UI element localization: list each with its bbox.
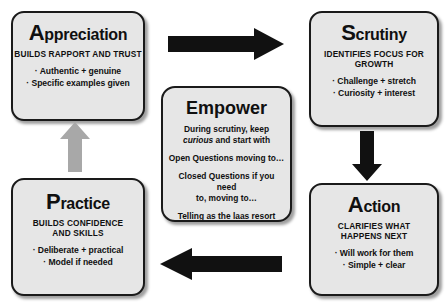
list-item: · Curiosity + interest bbox=[332, 88, 416, 100]
box-empower-line-3: Closed Questions if you need to, moving … bbox=[168, 171, 285, 204]
box-appreciation-title: Appreciation bbox=[29, 22, 128, 44]
list-item: · Model if needed bbox=[33, 257, 124, 269]
box-empower[interactable]: Empower During scrutiny, keepcurious and… bbox=[161, 86, 292, 222]
box-scrutiny-title: Scrutiny bbox=[341, 22, 407, 44]
arrow-down-icon bbox=[352, 131, 382, 181]
list-item: · Will work for them bbox=[335, 248, 414, 260]
list-item: · Deliberate + practical bbox=[33, 245, 124, 257]
box-action-title: Action bbox=[348, 194, 400, 216]
list-item: · Authentic + genuine bbox=[26, 66, 129, 78]
box-empower-title: Empower bbox=[186, 99, 267, 117]
box-scrutiny-title-capital: S bbox=[341, 20, 355, 45]
arrow-right-icon bbox=[168, 28, 284, 60]
list-item: · Specific examples given bbox=[26, 78, 129, 90]
box-appreciation-title-rest: ppreciation bbox=[44, 26, 127, 43]
box-scrutiny[interactable]: Scrutiny IDENTIFIES FOCUS FOR GROWTH · C… bbox=[309, 11, 439, 127]
box-practice[interactable]: Practice BUILDS CONFIDENCE AND SKILLS · … bbox=[11, 178, 145, 296]
box-practice-title: Practice bbox=[46, 191, 110, 213]
box-action-subtitle: CLARIFIES WHAT HAPPENS NEXT bbox=[338, 221, 410, 241]
box-empower-line-1-b: and start with bbox=[213, 135, 270, 145]
box-practice-subtitle: BUILDS CONFIDENCE AND SKILLS bbox=[33, 218, 124, 238]
box-scrutiny-bullets: · Challenge + stretch · Curiosity + inte… bbox=[332, 76, 416, 100]
list-item: · Simple + clear bbox=[335, 260, 414, 272]
box-action-title-rest: ction bbox=[363, 198, 400, 215]
box-scrutiny-subtitle: IDENTIFIES FOCUS FOR GROWTH bbox=[324, 49, 424, 69]
diagram-canvas: Appreciation BUILDS RAPPORT AND TRUST · … bbox=[0, 0, 448, 307]
box-action-title-capital: A bbox=[348, 192, 364, 217]
arrow-left-icon bbox=[160, 248, 282, 280]
box-empower-line-4: Telling as the laas resort bbox=[168, 211, 285, 222]
box-practice-title-capital: P bbox=[46, 189, 60, 214]
arrow-up-icon bbox=[60, 122, 90, 172]
box-appreciation-title-capital: A bbox=[29, 20, 45, 45]
box-empower-line-1: During scrutiny, keepcurious and start w… bbox=[168, 124, 285, 146]
box-appreciation-subtitle: BUILDS RAPPORT AND TRUST bbox=[14, 49, 141, 59]
box-practice-title-rest: ractice bbox=[60, 195, 110, 212]
box-empower-body: During scrutiny, keepcurious and start w… bbox=[163, 124, 290, 221]
list-item: · Challenge + stretch bbox=[332, 76, 416, 88]
box-appreciation-bullets: · Authentic + genuine · Specific example… bbox=[26, 66, 129, 90]
box-empower-line-1-a: During scrutiny, keep bbox=[184, 124, 269, 134]
box-scrutiny-title-rest: crutiny bbox=[356, 26, 407, 43]
box-empower-line-2: Open Questions moving to… bbox=[168, 153, 285, 164]
box-practice-bullets: · Deliberate + practical · Model if need… bbox=[33, 245, 124, 269]
box-empower-line-1-italic: curious bbox=[183, 135, 213, 145]
box-action[interactable]: Action CLARIFIES WHAT HAPPENS NEXT · Wil… bbox=[309, 183, 439, 296]
box-appreciation[interactable]: Appreciation BUILDS RAPPORT AND TRUST · … bbox=[11, 11, 145, 121]
box-action-bullets: · Will work for them · Simple + clear bbox=[335, 248, 414, 272]
